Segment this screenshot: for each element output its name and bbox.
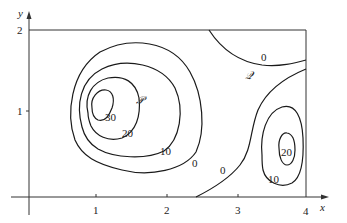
point-labels: 𝒫 𝒬: [136, 69, 255, 106]
contour-diagram: 1 2 3 4 x 1 2 y: [0, 0, 347, 223]
contour-middle-0: [196, 69, 306, 197]
x-tick-label-3: 3: [235, 204, 241, 216]
label-right-20: 20: [281, 146, 293, 158]
y-axis-label: y: [17, 7, 23, 19]
y-tick-label-1: 1: [17, 105, 23, 117]
label-left-20: 20: [122, 127, 134, 139]
y-tick-label-2: 2: [17, 24, 23, 36]
contour-left-0: [71, 43, 202, 173]
x-axis-arrow-icon: [321, 195, 329, 200]
y-axis-arrow-icon: [27, 11, 32, 19]
label-top-0: 0: [261, 51, 267, 63]
x-tick-label-2: 2: [164, 204, 170, 216]
point-q-label: 𝒬: [245, 69, 255, 81]
label-right-10: 10: [268, 173, 280, 185]
x-tick-label-1: 1: [93, 204, 99, 216]
point-p-label: 𝒫: [136, 94, 147, 106]
label-left-30: 30: [105, 111, 117, 123]
label-left-10: 10: [160, 145, 172, 157]
left-hill-contours: [71, 43, 202, 173]
contour-left-10: [79, 63, 180, 157]
label-left-0: 0: [192, 157, 198, 169]
label-middle-0: 0: [220, 164, 226, 176]
contour-top-right-0: [209, 30, 306, 66]
contour-labels: 30 20 10 0 0 0 20 10: [105, 51, 293, 185]
x-tick-label-4: 4: [303, 205, 309, 217]
x-axis-label: x: [319, 201, 325, 213]
